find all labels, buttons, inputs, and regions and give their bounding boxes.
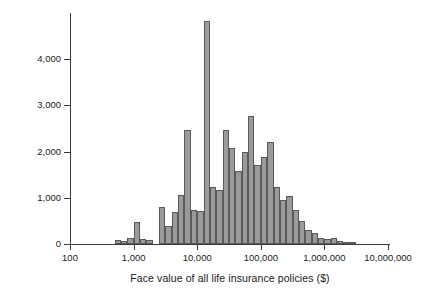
x-axis-title: Face value of all life insurance policie… <box>70 272 390 284</box>
histogram-figure: Number of respondents 01,0002,0003,0004,… <box>0 0 423 296</box>
histogram-bar <box>350 242 356 244</box>
histogram-bar <box>146 240 152 244</box>
plot-area <box>0 0 423 296</box>
